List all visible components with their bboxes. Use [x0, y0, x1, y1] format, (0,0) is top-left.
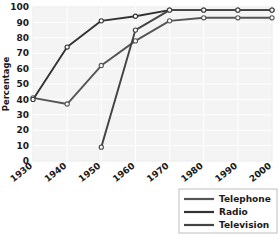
data-point-marker	[167, 8, 171, 12]
x-tick-label: 2000	[247, 161, 273, 184]
x-tick-label: 1960	[111, 161, 137, 184]
data-point-marker	[65, 45, 69, 49]
data-point-marker	[270, 8, 274, 12]
data-point-marker	[133, 39, 137, 43]
data-point-marker	[99, 19, 103, 23]
y-tick-label: 90	[16, 18, 29, 28]
chart-legend[interactable]: TelephoneRadioTelevision	[179, 189, 277, 233]
legend-label-text: Radio	[219, 207, 248, 217]
y-tick-label: 10	[16, 141, 29, 151]
data-point-marker	[65, 102, 69, 106]
data-point-marker	[31, 97, 35, 101]
data-point-marker	[236, 8, 240, 12]
x-tick-label: 1990	[213, 161, 239, 184]
legend-label-text: Television	[219, 220, 269, 230]
data-point-marker	[99, 145, 103, 149]
y-tick-label: 100	[10, 2, 29, 12]
x-tick-label: 1980	[179, 161, 205, 184]
data-point-marker	[133, 28, 137, 32]
line-chart: 0102030405060708090100 19301940195019601…	[0, 0, 279, 235]
y-tick-label: 30	[16, 110, 29, 120]
x-tick-label: 1930	[8, 161, 34, 184]
data-point-marker	[202, 16, 206, 20]
y-tick-label: 80	[16, 33, 29, 43]
legend-label-text: Telephone	[219, 194, 271, 204]
x-tick-label: 1940	[42, 161, 68, 184]
y-axis-title: Percentage	[1, 56, 11, 111]
y-tick-label: 50	[16, 79, 29, 89]
y-tick-label: 60	[16, 64, 29, 74]
y-axis-tick-labels: 0102030405060708090100	[10, 2, 29, 166]
x-tick-label: 1950	[77, 161, 103, 184]
data-point-marker	[167, 19, 171, 23]
x-tick-label: 1970	[145, 161, 171, 184]
data-point-marker	[270, 16, 274, 20]
data-point-marker	[236, 16, 240, 20]
chart-container: 0102030405060708090100 19301940195019601…	[0, 0, 279, 235]
x-axis-tick-labels: 19301940195019601970198019902000	[8, 161, 273, 184]
y-tick-label: 70	[16, 48, 29, 58]
y-axis-label-text: Percentage	[1, 56, 11, 111]
data-point-marker	[202, 8, 206, 12]
y-tick-label: 20	[16, 125, 29, 135]
data-point-marker	[99, 63, 103, 67]
data-point-marker	[133, 14, 137, 18]
y-tick-label: 40	[16, 95, 29, 105]
